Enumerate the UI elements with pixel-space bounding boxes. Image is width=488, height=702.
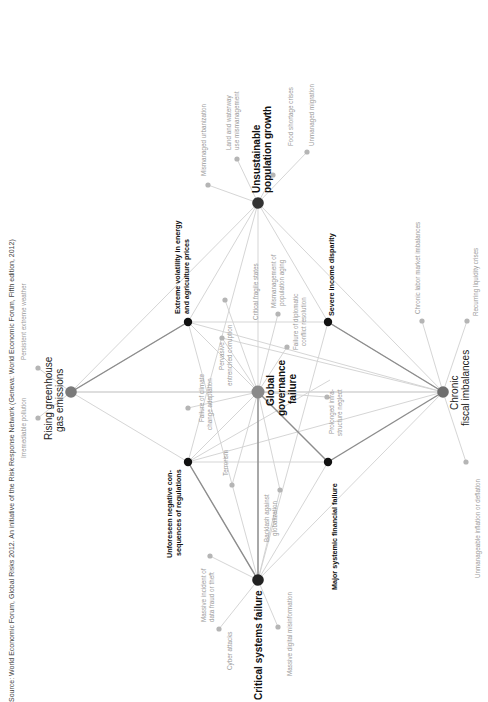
label-critical-systems: Critical systems failure [253, 590, 264, 700]
label-backlash-2: globalization [271, 500, 279, 536]
label-climate-2: change adaptation [206, 378, 214, 430]
label-population-2: population growth [262, 106, 273, 193]
label-diplomatic-1: Failure of diplomatic [292, 294, 300, 350]
label-ghg-2: gas emissions [54, 369, 65, 432]
label-ghg-1: Rising greenhouse [43, 356, 54, 440]
label-aging-2: population aging [278, 259, 286, 306]
label-aging-1: Mismanagement of [270, 254, 278, 308]
label-fiscal-2: fiscal imbalances [460, 350, 471, 426]
label-population-1: Unsustainable [251, 124, 262, 193]
label-unmanaged-migration: Unmanaged migration [308, 84, 316, 146]
label-fragile-states: Critical fragile states [252, 263, 260, 320]
label-financial-failure: Major systemic financial failure [330, 483, 339, 590]
label-terrorism: Terrorism [222, 450, 229, 476]
label-datafraud-1: Massive incident of [200, 568, 207, 622]
label-food-shortage: Food shortage crises [287, 87, 295, 146]
source-citation: Source: World Economic Forum, Global Ris… [8, 239, 16, 702]
major-nodes [65, 197, 449, 586]
label-income-disparity: Severe income disparity [327, 233, 336, 316]
label-datafraud-2: data fraud or theft [208, 572, 215, 622]
label-unforeseen-2: sequences of regulations [174, 469, 183, 556]
label-governance-2: governance [276, 359, 287, 416]
label-inflation-deflation: Unmanageable inflation or deflation [474, 478, 482, 578]
label-climate-1: Failure of climate [198, 374, 205, 422]
label-infra-1: Prolonged infra- [328, 389, 336, 434]
risk-network-diagram: Source: World Economic Forum, Global Ris… [0, 0, 488, 702]
label-unforeseen-1: Unforeseen negative con- [165, 470, 174, 558]
label-land-waterway-1: Land and waterway [225, 95, 233, 150]
label-backlash-1: Backlash against [263, 494, 271, 542]
label-persistent-extreme-weather: Persistent extreme weather [20, 283, 27, 360]
label-liquidity-crises: Recurring liquidity crises [472, 248, 480, 316]
label-corruption-1: Pervasive [218, 342, 225, 370]
label-diplomatic-2: conflict resolution [300, 297, 307, 346]
label-infra-2: structure neglect [336, 389, 344, 436]
label-governance-3: failure [287, 374, 298, 404]
label-fiscal-1: Chronic [449, 376, 460, 410]
label-volatility-1: Extreme volatility in energy [173, 221, 182, 314]
label-digital-misinformation: Massive digital misinformation [286, 592, 294, 676]
label-volatility-2: and agriculture prices [182, 239, 191, 314]
label-governance-1: Global [265, 375, 276, 406]
label-land-waterway-2: use mismanagement [233, 91, 241, 150]
label-mismanaged-urbanization: Mismanaged urbanization [200, 103, 208, 176]
edges-dark [71, 322, 443, 580]
label-cyber-attacks: Cyber attacks [226, 632, 234, 671]
label-labor-market: Chronic labor market imbalances [414, 222, 421, 314]
label-irremediable-pollution: Irremediable pollution [20, 397, 28, 458]
label-corruption-2: entrenched corruption [226, 324, 234, 386]
